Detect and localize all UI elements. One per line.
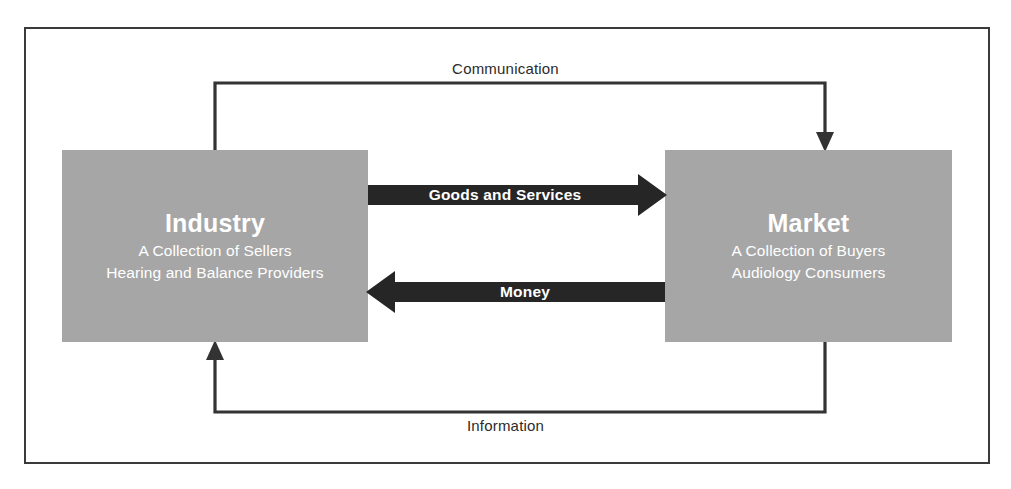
flow-label-communication: Communication bbox=[0, 60, 1011, 77]
industry-subtitle-2: Hearing and Balance Providers bbox=[106, 262, 323, 283]
communication-path bbox=[215, 83, 825, 150]
entity-box-industry[interactable]: Industry A Collection of Sellers Hearing… bbox=[62, 150, 368, 342]
diagram-canvas: Industry A Collection of Sellers Hearing… bbox=[0, 0, 1011, 489]
flow-label-money: Money bbox=[400, 283, 650, 301]
communication-arrowhead-icon bbox=[816, 132, 834, 152]
market-subtitle-1: A Collection of Buyers bbox=[732, 240, 886, 261]
industry-subtitle-1: A Collection of Sellers bbox=[138, 240, 291, 261]
entity-box-market[interactable]: Market A Collection of Buyers Audiology … bbox=[665, 150, 952, 342]
industry-title: Industry bbox=[165, 209, 265, 237]
market-title: Market bbox=[768, 209, 850, 237]
flow-label-information: Information bbox=[0, 417, 1011, 434]
flow-label-goods-and-services: Goods and Services bbox=[380, 186, 630, 204]
market-subtitle-2: Audiology Consumers bbox=[732, 262, 886, 283]
information-arrowhead-icon bbox=[206, 340, 224, 360]
information-path bbox=[215, 342, 825, 412]
